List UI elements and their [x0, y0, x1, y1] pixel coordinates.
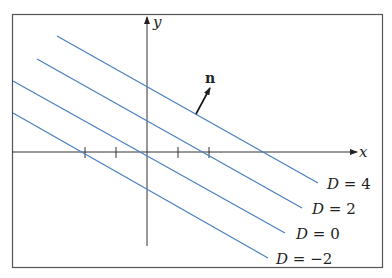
level-lines-diagram: x y D = 4 D = 2 D = 0 D = −2 n — [0, 0, 392, 278]
level-line-d2 — [37, 59, 302, 208]
label-d2: D = 2 — [311, 200, 356, 218]
y-axis-label: y — [152, 13, 162, 31]
normal-vector-arrow — [196, 88, 210, 114]
label-d4: D = 4 — [326, 175, 371, 193]
x-axis-label: x — [359, 143, 368, 161]
level-lines — [13, 36, 318, 258]
level-line-d0 — [13, 81, 285, 233]
level-line-dm2 — [13, 113, 268, 258]
label-dm2: D = −2 — [275, 250, 332, 268]
normal-vector-label: n — [205, 70, 215, 86]
label-d0: D = 0 — [295, 225, 340, 243]
